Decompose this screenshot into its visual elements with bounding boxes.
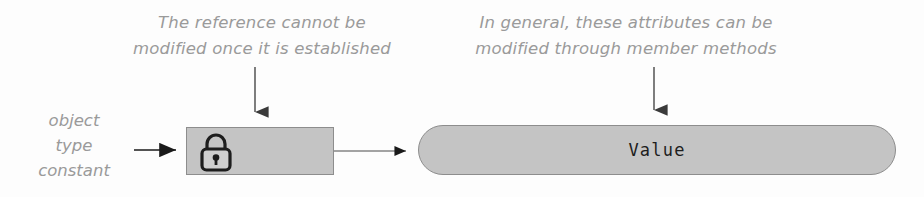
annotation-text-attributes: In general, these attributes can be modi… <box>458 10 794 62</box>
value-label: Value <box>628 140 685 160</box>
object-label-line-1: object <box>18 108 130 133</box>
annotation-right-line-1: In general, these attributes can be <box>458 10 794 36</box>
value-pill: Value <box>418 125 896 175</box>
reference-box <box>186 127 334 175</box>
annotation-left-line-1: The reference cannot be <box>118 10 406 36</box>
object-label-line-3: constant <box>18 158 130 183</box>
annotation-left-line-2: modified once it is established <box>118 36 406 62</box>
annotation-text-reference: The reference cannot be modified once it… <box>118 10 406 62</box>
object-type-constant-label: object type constant <box>18 108 130 183</box>
lock-icon <box>197 132 235 172</box>
annotation-right-line-2: modified through member methods <box>458 36 794 62</box>
diagram-canvas: The reference cannot be modified once it… <box>0 0 924 197</box>
object-label-line-2: type <box>18 133 130 158</box>
